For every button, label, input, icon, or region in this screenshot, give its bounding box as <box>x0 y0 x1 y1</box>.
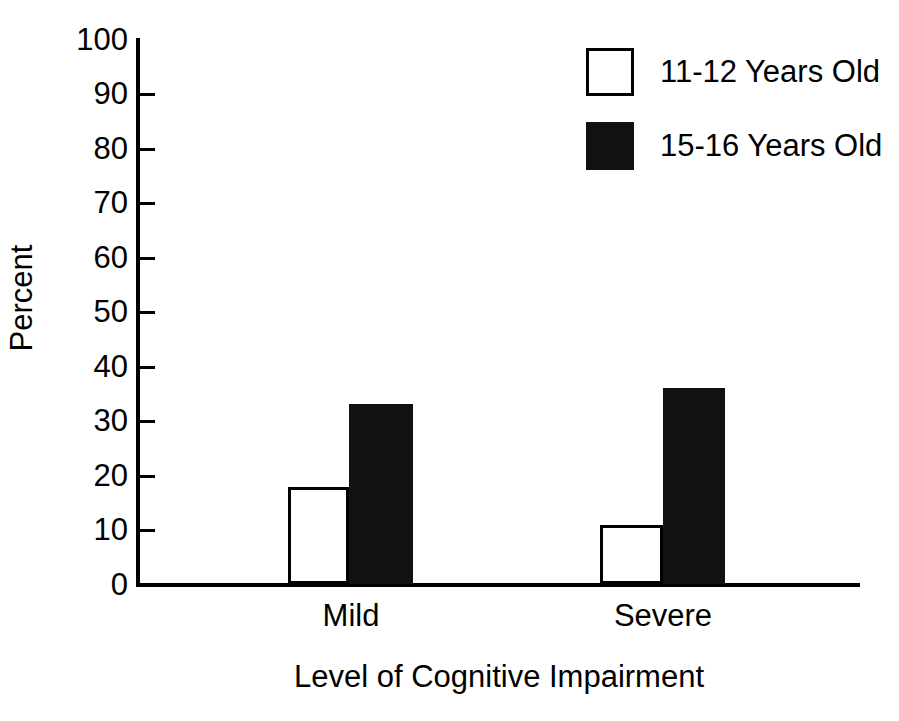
y-tick-label-40: 40 <box>8 351 128 382</box>
bar-severe-15-16 <box>663 388 725 584</box>
y-tick-label-100: 100 <box>8 24 128 55</box>
y-tick-mark-90 <box>140 93 155 96</box>
bar-mild-11-12 <box>288 487 349 584</box>
y-tick-mark-60 <box>140 257 155 260</box>
bar-chart-figure: Percent 100 90 80 70 60 50 40 30 20 10 0 <box>0 0 899 721</box>
legend: 11-12 Years Old 15-16 Years Old <box>586 42 882 176</box>
bar-mild-15-16 <box>349 404 413 584</box>
y-tick-label-100-wrap: 100 <box>0 24 128 55</box>
y-tick-label-40-wrap: 40 <box>0 351 128 382</box>
legend-item-15-16: 15-16 Years Old <box>586 116 882 176</box>
y-tick-mark-70 <box>140 202 155 205</box>
bar-severe-11-12 <box>600 525 663 584</box>
legend-swatch-filled-icon <box>586 122 634 170</box>
y-tick-label-50: 50 <box>8 296 128 327</box>
y-tick-label-0-wrap: 0 <box>0 569 128 600</box>
y-tick-mark-80 <box>140 148 155 151</box>
legend-label-15-16: 15-16 Years Old <box>660 128 882 164</box>
y-tick-mark-10 <box>140 529 155 532</box>
y-tick-label-60: 60 <box>8 242 128 273</box>
y-tick-label-20: 20 <box>8 460 128 491</box>
y-tick-mark-20 <box>140 475 155 478</box>
y-tick-label-30-wrap: 30 <box>0 405 128 436</box>
x-axis-title: Level of Cognitive Impairment <box>138 659 860 695</box>
legend-swatch-open-icon <box>586 48 634 96</box>
legend-label-11-12: 11-12 Years Old <box>660 54 880 90</box>
y-tick-mark-40 <box>140 366 155 369</box>
x-axis-line <box>136 583 860 587</box>
y-tick-label-50-wrap: 50 <box>0 296 128 327</box>
y-tick-mark-30 <box>140 420 155 423</box>
y-tick-label-60-wrap: 60 <box>0 242 128 273</box>
y-tick-label-0: 0 <box>8 569 128 600</box>
y-tick-label-70-wrap: 70 <box>0 187 128 218</box>
x-category-label-severe: Severe <box>553 598 773 634</box>
y-tick-label-90: 90 <box>8 78 128 109</box>
y-tick-label-70: 70 <box>8 187 128 218</box>
x-category-label-mild: Mild <box>241 598 461 634</box>
y-tick-label-10: 10 <box>8 514 128 545</box>
y-tick-mark-50 <box>140 311 155 314</box>
y-tick-label-20-wrap: 20 <box>0 460 128 491</box>
y-tick-label-80: 80 <box>8 133 128 164</box>
y-tick-label-30: 30 <box>8 405 128 436</box>
y-tick-label-10-wrap: 10 <box>0 514 128 545</box>
legend-item-11-12: 11-12 Years Old <box>586 42 882 102</box>
y-tick-label-80-wrap: 80 <box>0 133 128 164</box>
y-tick-label-90-wrap: 90 <box>0 78 128 109</box>
y-axis-line <box>136 38 140 587</box>
